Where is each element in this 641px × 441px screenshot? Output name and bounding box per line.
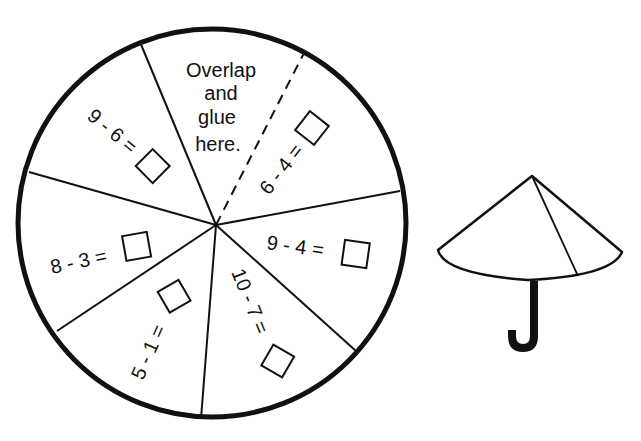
- glue-line-3: glue: [198, 106, 236, 128]
- wheel-center-point: [214, 223, 218, 227]
- glue-line-4: here.: [195, 133, 241, 155]
- umbrella-handle: [512, 281, 534, 348]
- glue-line-2: and: [204, 82, 237, 104]
- answer-box[interactable]: [342, 240, 370, 268]
- spinner-wheel: Overlap and glue here. 6 - 4 = 9 - 4 = 1…: [18, 29, 406, 419]
- worksheet-canvas: Overlap and glue here. 6 - 4 = 9 - 4 = 1…: [0, 0, 641, 441]
- umbrella-canopy: [438, 176, 622, 280]
- glue-line-1: Overlap: [186, 59, 256, 81]
- answer-box[interactable]: [122, 232, 151, 261]
- umbrella-illustration: [438, 176, 622, 348]
